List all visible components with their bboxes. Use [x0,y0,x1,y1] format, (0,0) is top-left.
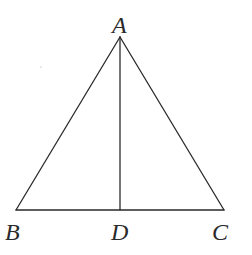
label-d: D [110,219,128,245]
triangle-diagram: A B D C [0,0,252,255]
segment-ab [16,37,120,210]
speck-dot [40,66,41,67]
label-b: B [5,219,20,245]
label-c: C [212,219,229,245]
label-a: A [110,12,127,38]
segment-ac [120,37,224,210]
